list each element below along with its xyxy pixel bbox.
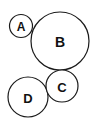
circle-c-label: C: [57, 80, 67, 95]
circle-a: A: [10, 15, 33, 38]
circle-b: B: [31, 12, 89, 70]
circle-c: C: [46, 70, 78, 102]
circles-diagram: B A D C: [0, 0, 93, 125]
circle-d: D: [8, 77, 48, 117]
circle-d-label: D: [23, 91, 32, 106]
circle-a-label: A: [17, 20, 26, 34]
circle-b-label: B: [55, 34, 65, 50]
